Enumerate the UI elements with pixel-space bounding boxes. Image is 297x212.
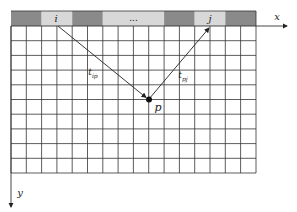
path-i-to-p <box>58 26 146 98</box>
path-label-tip-sub: ip <box>92 72 98 80</box>
cell-label-ellipsis: ... <box>129 13 138 23</box>
bar-cell-dark <box>225 11 256 26</box>
y-axis-label: y <box>16 187 23 198</box>
point-p <box>146 97 152 103</box>
x-axis-label: x <box>274 11 280 22</box>
cell-label-i: i <box>54 13 57 24</box>
bar-cell-dark <box>164 11 195 26</box>
grid <box>11 11 256 173</box>
path-label-tpj-sub: pj <box>182 75 188 83</box>
path-label-tip: tip <box>88 67 98 80</box>
diagram-canvas: i ... j x y p tip tpj <box>0 0 297 212</box>
svg-text:tip: tip <box>88 67 98 80</box>
point-label-p: p <box>154 101 161 114</box>
bar-cell-dark <box>11 11 42 26</box>
bar-cell-dark <box>72 11 103 26</box>
